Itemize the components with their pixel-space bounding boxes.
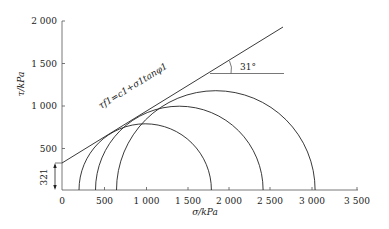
mohr-circle-1 xyxy=(79,124,211,190)
x-ticks xyxy=(105,187,358,190)
x-tick-label: 3 500 xyxy=(344,196,370,206)
x-tick-label: 0 xyxy=(59,196,65,206)
y-tick-label: 1 000 xyxy=(31,101,57,111)
mohr-circles xyxy=(79,91,315,190)
mohr-circle-2 xyxy=(96,106,264,190)
envelope-equation: τf1=c1+σ1tanφ1 xyxy=(97,61,169,111)
x-tick-label: 1 000 xyxy=(134,196,160,206)
cohesion-label: 321 xyxy=(39,168,49,185)
x-tick-label: 500 xyxy=(96,196,113,206)
x-tick-label: 3 000 xyxy=(299,196,325,206)
y-tick-label: 1 500 xyxy=(31,59,57,69)
x-tick-label: 2 500 xyxy=(257,196,283,206)
y-ticks xyxy=(62,21,65,149)
failure-envelope-line xyxy=(62,27,283,163)
x-tick-label: 1 500 xyxy=(175,196,201,206)
angle-label: 31° xyxy=(240,62,256,72)
x-axis-label: σ/kPa xyxy=(192,207,218,217)
arrow-down-icon xyxy=(53,185,56,190)
angle-arc xyxy=(230,61,232,74)
x-tick-label: 2 000 xyxy=(216,196,242,206)
arrow-up-icon xyxy=(53,163,56,168)
y-tick-label: 2 000 xyxy=(31,16,57,26)
y-tick-label: 500 xyxy=(40,144,57,154)
mohr-circle-3 xyxy=(117,91,316,190)
y-axis-label: τ/kPa xyxy=(16,72,26,96)
mohr-coulomb-diagram: 2 000 1 500 1 000 500 0 500 1 000 1 500 … xyxy=(0,0,389,229)
